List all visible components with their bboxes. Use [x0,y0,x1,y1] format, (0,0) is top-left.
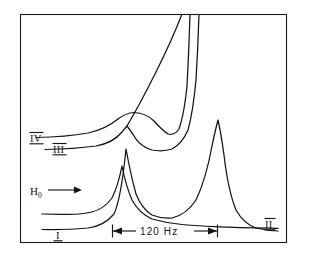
trace-label-one-text: I [56,230,60,241]
trace-four-inner-branch [127,14,182,126]
trace-label-four-text: IV [30,133,42,144]
scale-bar-arrowhead-left [113,227,122,234]
trace-label-one: I [54,230,63,242]
spectrum-figure: H0 120 Hz IV III I [0,0,309,256]
field-arrow-group: H0 [30,185,82,200]
trace-three [45,14,199,151]
scale-bar-label: 120 Hz [140,226,178,237]
field-arrow-head [74,186,82,193]
trace-label-two-text: II [265,219,273,230]
trace-label-three-text: III [53,144,65,155]
spectrum-svg: H0 120 Hz IV III I [0,0,309,256]
trace-group [36,14,278,231]
trace-label-four: IV [30,133,44,145]
field-label: H0 [30,185,42,200]
trace-four [36,14,190,138]
scale-bar-arrowhead-right [208,227,217,234]
plot-frame [21,15,287,243]
